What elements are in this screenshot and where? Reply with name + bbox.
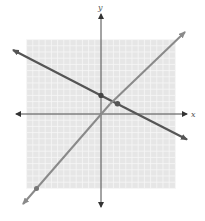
point-lower-left (34, 186, 39, 191)
coordinate-graph: x y (0, 0, 205, 221)
point-intersection (115, 101, 121, 107)
x-axis-label: x (191, 110, 196, 119)
point-y-intercept (98, 93, 103, 98)
y-axis-label: y (97, 3, 103, 12)
